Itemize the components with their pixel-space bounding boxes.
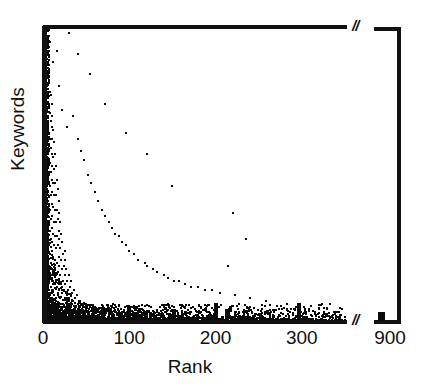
scatter-point	[249, 306, 251, 308]
scatter-point	[76, 294, 78, 296]
scatter-point	[49, 185, 51, 187]
scatter-point	[286, 303, 288, 305]
scatter-point	[208, 311, 210, 313]
scatter-point	[315, 315, 317, 317]
scatter-point	[68, 303, 70, 305]
scatter-point	[139, 309, 141, 311]
scatter-point	[100, 310, 102, 312]
scatter-point	[50, 315, 52, 317]
scatter-point	[310, 305, 312, 307]
scatter-point	[234, 313, 236, 315]
scatter-point	[58, 304, 60, 306]
scatter-point	[52, 129, 54, 131]
scatter-point	[144, 262, 146, 264]
scatter-point	[148, 305, 150, 307]
scatter-point	[64, 283, 66, 285]
scatter-point	[264, 305, 266, 307]
scatter-point	[53, 266, 55, 268]
scatter-point	[328, 312, 330, 314]
scatter-point	[54, 276, 56, 278]
scatter-point	[253, 307, 255, 309]
scatter-point	[50, 218, 52, 220]
scatter-point	[88, 311, 90, 313]
scatter-point	[85, 306, 87, 308]
scatter-point	[185, 304, 187, 306]
scatter-point	[125, 244, 127, 246]
scatter-point	[63, 290, 65, 292]
scatter-point	[71, 292, 73, 294]
scatter-point	[303, 306, 305, 308]
scatter-point	[141, 304, 143, 306]
scatter-point	[108, 315, 110, 317]
scatter-point	[79, 302, 81, 304]
scatter-point	[273, 311, 275, 313]
scatter-point	[83, 159, 85, 161]
scatter-point	[79, 312, 81, 314]
scatter-point	[197, 286, 199, 288]
scatter-point	[202, 317, 204, 319]
scatter-point	[71, 303, 73, 305]
scatter-point	[323, 311, 325, 313]
scatter-point	[118, 310, 120, 312]
scatter-point	[50, 120, 52, 122]
scatter-point	[58, 238, 60, 240]
scatter-point	[184, 306, 186, 308]
scatter-point	[73, 289, 75, 291]
scatter-point	[59, 221, 61, 223]
scatter-point	[56, 179, 58, 181]
scatter-point	[104, 215, 106, 217]
scatter-point	[188, 304, 190, 306]
scatter-point	[334, 313, 336, 315]
scatter-point	[308, 308, 310, 310]
scatter-point	[48, 80, 50, 82]
scatter-point	[47, 39, 49, 41]
scatter-point	[60, 259, 62, 261]
axis-break-marker-top: //	[352, 18, 358, 33]
scatter-point	[48, 203, 50, 205]
scatter-point	[49, 304, 51, 306]
scatter-point	[73, 310, 75, 312]
scatter-point	[323, 307, 325, 309]
scatter-point	[111, 227, 113, 229]
scatter-point	[238, 312, 240, 314]
scatter-point	[161, 315, 163, 317]
scatter-point	[104, 103, 106, 105]
scatter-point	[257, 309, 259, 311]
scatter-point	[55, 247, 57, 249]
scatter-point	[67, 298, 69, 300]
scatter-point	[293, 308, 295, 310]
axis-break-marker-bottom: //	[352, 312, 358, 327]
scatter-point	[48, 161, 50, 163]
scatter-point	[204, 304, 206, 306]
scatter-point	[92, 316, 94, 318]
scatter-point	[237, 308, 239, 310]
scatter-point	[47, 96, 49, 98]
scatter-point	[236, 305, 238, 307]
axis-top-spine	[43, 25, 347, 29]
scatter-point	[68, 308, 70, 310]
scatter-point	[283, 307, 285, 309]
scatter-point	[89, 73, 91, 75]
scatter-point	[58, 278, 60, 280]
scatter-point	[68, 32, 70, 34]
x-tick-label-200: 200	[186, 327, 246, 349]
scatter-point	[261, 304, 263, 306]
scatter-point	[58, 230, 60, 232]
scatter-point	[125, 132, 127, 134]
scatter-point	[47, 93, 49, 95]
scatter-point	[227, 265, 229, 267]
scatter-point	[50, 257, 52, 259]
scatter-point	[318, 307, 320, 309]
scatter-point	[51, 227, 53, 229]
scatter-point	[128, 250, 130, 252]
scatter-point	[62, 280, 64, 282]
scatter-point	[57, 188, 59, 190]
scatter-point	[61, 306, 63, 308]
scatter-point	[61, 308, 63, 310]
scatter-point	[66, 126, 68, 128]
scatter-point	[47, 91, 49, 93]
scatter-point	[121, 241, 123, 243]
scatter-point	[52, 283, 54, 285]
scatter-point	[136, 313, 138, 315]
scatter-point	[69, 286, 71, 288]
